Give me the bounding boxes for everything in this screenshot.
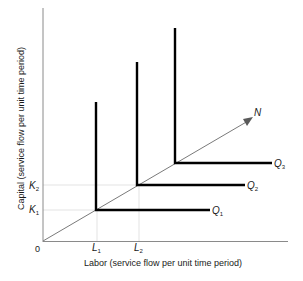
y-tick-k2: K2 bbox=[29, 180, 40, 192]
origin-label: 0 bbox=[35, 244, 40, 254]
arrow-head-icon bbox=[243, 117, 253, 126]
x-axis-label: Labor (service flow per unit time period… bbox=[84, 258, 242, 268]
expansion-ray-n bbox=[43, 121, 248, 241]
isoquant-label-q3: Q3 bbox=[274, 158, 286, 170]
isoquant-diagram: 0 N K2 K1 L1 L2 Q1 Q2 Q3 Labor (service … bbox=[0, 0, 303, 281]
isoquant-q3 bbox=[175, 28, 272, 163]
isoquant-label-q2: Q2 bbox=[247, 180, 259, 192]
y-axis-label: Capital (service flow per unit time peri… bbox=[16, 47, 26, 210]
ray-label-n: N bbox=[254, 107, 262, 118]
isoquant-label-q1: Q1 bbox=[212, 205, 224, 217]
x-tick-l1: L1 bbox=[92, 242, 102, 254]
isoquant-q2 bbox=[137, 62, 245, 185]
isoquant-q1 bbox=[96, 102, 210, 210]
y-tick-k1: K1 bbox=[29, 204, 40, 216]
x-tick-l2: L2 bbox=[134, 242, 144, 254]
